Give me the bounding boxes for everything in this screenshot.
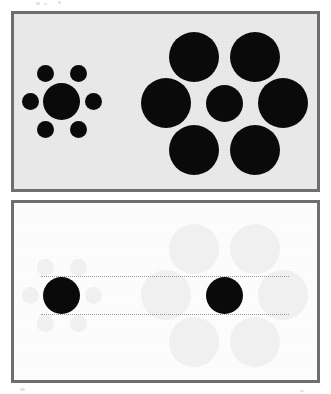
inducer-circle [37,65,54,82]
scan-speck [44,3,47,5]
scan-speck [20,388,25,391]
inducer-circle [37,121,54,138]
inducer-circle [169,32,219,82]
inducer-circle [70,121,87,138]
target-circle [43,83,80,120]
inducer-circle [37,259,54,276]
scan-speck [36,2,40,5]
inducer-circle [230,125,280,175]
inducer-circle [169,125,219,175]
inducer-circle [230,224,280,274]
inducer-circle [258,78,308,128]
panel-ebbinghaus-comparison [11,200,320,383]
scan-speck [58,1,61,4]
inducer-circle [70,315,87,332]
inducer-circle [230,32,280,82]
inducer-circle [169,317,219,367]
inducer-circle [70,65,87,82]
scan-speck [300,390,304,392]
target-circle [43,277,80,314]
inducer-circle [85,287,102,304]
figure-canvas [0,0,331,394]
inducer-circle [85,93,102,110]
target-circle [206,277,243,314]
inducer-circle [70,259,87,276]
inducer-circle [258,270,308,320]
guide-bottom [41,314,289,315]
inducer-circle [141,270,191,320]
inducer-circle [169,224,219,274]
inducer-circle [22,93,39,110]
inducer-circle [37,315,54,332]
inducer-circle [22,287,39,304]
panel-ebbinghaus-stimulus [11,11,320,192]
inducer-circle [230,317,280,367]
target-circle [206,85,243,122]
guide-top [41,276,289,277]
inducer-circle [141,78,191,128]
